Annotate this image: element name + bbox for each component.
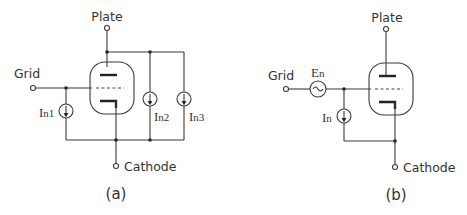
grid-label-b: Grid [268,68,294,83]
source-label-in3: In3 [189,109,205,124]
current-source-in1 [59,104,73,118]
voltage-source-en [310,81,326,97]
plate-terminal-b [384,27,389,32]
source-label-in: In [322,110,332,125]
grid-terminal-b [284,87,289,92]
cathode-terminal-b [393,165,398,170]
plate-terminal-a [105,26,110,31]
source-label-in1: In1 [39,105,54,120]
current-source-in2 [143,92,157,106]
current-source-in3 [177,92,191,106]
caption-a: (a) [106,185,127,203]
triode-tube-b [369,63,413,115]
cathode-label-a: Cathode [124,159,177,174]
junction-dot [105,50,109,54]
figure-b: Plate Grid En In Cathode [268,10,456,204]
junction-dot [393,139,397,143]
plate-label-b: Plate [371,10,403,25]
triode-tube-a [90,62,134,114]
circuit-diagram: Plate Grid In1 Catho [0,0,467,215]
grid-label-a: Grid [14,66,40,81]
caption-b: (b) [385,186,406,204]
source-label-en: En [311,65,325,80]
grid-terminal-a [31,86,36,91]
cathode-label-b: Cathode [403,160,456,175]
junction-dot [114,138,118,142]
current-source-in [337,109,351,123]
source-label-in2: In2 [154,109,169,124]
plate-label-a: Plate [91,9,123,24]
figure-a: Plate Grid In1 Catho [14,9,205,203]
cathode-terminal-a [114,164,119,169]
